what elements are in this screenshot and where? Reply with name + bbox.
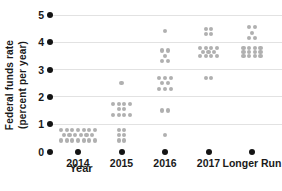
data-dot xyxy=(163,29,167,33)
data-dot xyxy=(163,133,167,137)
y-gridline xyxy=(50,15,282,16)
data-dot xyxy=(59,128,63,132)
data-dot xyxy=(117,133,121,137)
y-axis-title-line1: Federal funds rate xyxy=(3,29,16,141)
data-dot xyxy=(247,25,251,29)
y-axis-title: Federal funds rate (percent per year) xyxy=(3,29,31,141)
y-tick-label: 5 xyxy=(28,8,44,22)
y-tick-label: 2 xyxy=(28,90,44,104)
data-dot xyxy=(163,76,167,80)
data-dot xyxy=(157,87,161,91)
fed-dot-plot-chart: Federal funds rate (percent per year) 54… xyxy=(0,0,282,191)
data-dot xyxy=(111,113,115,117)
data-dot xyxy=(122,107,126,111)
data-dot xyxy=(169,76,173,80)
x-axis-tick-dot xyxy=(119,149,125,155)
data-dot xyxy=(90,133,94,137)
y-tick-label: 3 xyxy=(28,63,44,77)
data-dot xyxy=(76,128,80,132)
data-dot xyxy=(67,133,71,137)
data-dot xyxy=(62,133,66,137)
data-dot xyxy=(253,36,257,40)
data-dot xyxy=(166,59,170,63)
data-dot xyxy=(73,133,77,137)
data-dot xyxy=(70,138,74,142)
x-axis-tick-dot xyxy=(249,149,255,155)
y-axis-tick-dot xyxy=(47,149,53,155)
data-dot xyxy=(79,133,83,137)
data-dot xyxy=(166,81,170,85)
x-axis-title: Year xyxy=(53,162,109,174)
data-dot xyxy=(122,133,126,137)
data-dot xyxy=(160,59,164,63)
data-dot xyxy=(198,54,202,58)
data-dot xyxy=(122,113,126,117)
data-dot xyxy=(65,138,69,142)
data-dot xyxy=(163,54,167,58)
y-axis-tick-dot xyxy=(47,121,53,127)
y-axis-tick-dot xyxy=(47,94,53,100)
data-dot xyxy=(215,54,219,58)
data-dot xyxy=(247,54,251,58)
data-dot xyxy=(241,54,245,58)
data-dot xyxy=(215,46,219,50)
data-dot xyxy=(82,138,86,142)
data-dot xyxy=(253,25,257,29)
y-tick-label: 4 xyxy=(28,35,44,49)
data-dot xyxy=(119,81,123,85)
y-axis-tick-dot xyxy=(47,67,53,73)
data-dot xyxy=(117,128,121,132)
data-dot xyxy=(204,27,208,31)
data-dot xyxy=(70,128,74,132)
y-tick-label: 0 xyxy=(28,145,44,159)
data-dot xyxy=(76,138,80,142)
data-dot xyxy=(166,108,170,112)
data-dot xyxy=(117,113,121,117)
x-axis-tick-dot xyxy=(162,149,168,155)
data-dot xyxy=(160,48,164,52)
x-axis-tick-dot xyxy=(75,149,81,155)
y-gridline xyxy=(50,96,282,97)
data-dot xyxy=(157,76,161,80)
data-dot xyxy=(65,128,69,132)
data-dot xyxy=(122,102,126,106)
data-dot xyxy=(117,102,121,106)
data-dot xyxy=(250,31,254,35)
y-gridline xyxy=(50,124,282,125)
data-dot xyxy=(160,108,164,112)
data-dot xyxy=(128,113,132,117)
data-dot xyxy=(128,102,132,106)
data-dot xyxy=(82,128,86,132)
data-dot xyxy=(87,138,91,142)
data-dot xyxy=(117,107,121,111)
data-dot xyxy=(84,133,88,137)
y-gridline xyxy=(50,42,282,43)
data-dot xyxy=(59,138,63,142)
data-dot xyxy=(209,27,213,31)
data-dot xyxy=(111,102,115,106)
data-dot xyxy=(122,128,126,132)
data-dot xyxy=(247,36,251,40)
data-dot xyxy=(87,128,91,132)
data-dot xyxy=(117,138,121,142)
data-dot xyxy=(122,138,126,142)
data-dot xyxy=(93,128,97,132)
y-tick-label: 1 xyxy=(28,117,44,131)
data-dot xyxy=(166,48,170,52)
data-dot xyxy=(253,54,257,58)
data-dot xyxy=(93,138,97,142)
data-dot xyxy=(169,87,173,91)
data-dot xyxy=(163,87,167,91)
x-tick-label: Longer Run xyxy=(220,157,282,169)
y-gridline xyxy=(50,69,282,70)
data-dot xyxy=(160,81,164,85)
data-dot xyxy=(204,54,208,58)
data-dot xyxy=(204,32,208,36)
y-axis-tick-dot xyxy=(47,39,53,45)
data-dot xyxy=(209,76,213,80)
data-dot xyxy=(258,54,262,58)
y-axis-tick-dot xyxy=(47,12,53,18)
x-axis-tick-dot xyxy=(206,149,212,155)
data-dot xyxy=(209,54,213,58)
data-dot xyxy=(204,76,208,80)
